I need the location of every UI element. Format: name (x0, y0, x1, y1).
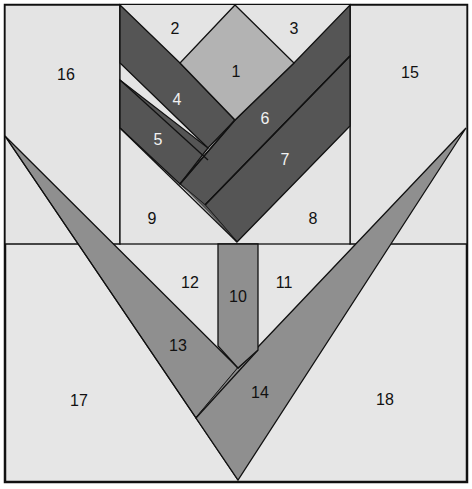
label-18: 18 (376, 391, 394, 408)
label-2: 2 (171, 20, 180, 37)
label-5: 5 (154, 131, 163, 148)
label-1: 1 (232, 63, 241, 80)
label-9: 9 (148, 210, 157, 227)
label-13: 13 (169, 337, 187, 354)
label-7: 7 (281, 151, 290, 168)
label-14: 14 (251, 384, 269, 401)
label-6: 6 (261, 110, 270, 127)
piece-10 (218, 244, 258, 368)
label-4: 4 (173, 91, 182, 108)
label-12: 12 (181, 274, 199, 291)
label-3: 3 (290, 20, 299, 37)
label-16: 16 (57, 66, 75, 83)
label-10: 10 (229, 288, 247, 305)
label-15: 15 (401, 64, 419, 81)
label-17: 17 (70, 392, 88, 409)
label-8: 8 (309, 210, 318, 227)
label-11: 11 (276, 274, 293, 291)
tulip-quilt-block: 1 2 3 4 5 6 7 8 9 10 11 12 13 14 15 16 1… (0, 0, 472, 489)
